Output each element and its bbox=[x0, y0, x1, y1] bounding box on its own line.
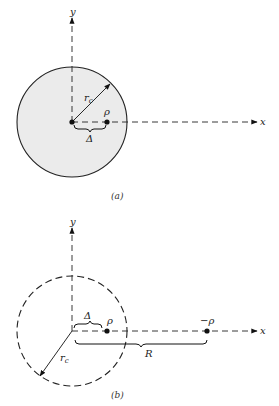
x-axis-label: x bbox=[260, 116, 266, 127]
caption-a: (a) bbox=[111, 191, 124, 201]
offset-label: Δ bbox=[83, 310, 91, 321]
figure-a: y x rc ρ Δ (a) bbox=[17, 6, 266, 201]
caption-b: (b) bbox=[111, 390, 124, 400]
radius-label: rc bbox=[60, 352, 69, 365]
offset-brace bbox=[74, 321, 102, 328]
figure-b: y x rc Δ ρ −ρ R (b) bbox=[17, 216, 266, 400]
distance-brace bbox=[75, 340, 207, 347]
charge-label: ρ bbox=[103, 106, 110, 117]
distance-label: R bbox=[144, 348, 153, 359]
radius-arrow bbox=[40, 331, 72, 376]
charge-dot bbox=[104, 119, 109, 124]
origin-dot bbox=[69, 119, 74, 124]
image-charge-label: −ρ bbox=[200, 315, 214, 326]
y-axis-label: y bbox=[69, 6, 76, 17]
offset-label: Δ bbox=[85, 133, 93, 144]
charge-dot bbox=[104, 328, 109, 333]
y-axis-label: y bbox=[69, 216, 76, 227]
charge-label: ρ bbox=[106, 315, 113, 326]
image-charge-dot bbox=[204, 328, 209, 333]
x-axis-label: x bbox=[260, 325, 266, 336]
